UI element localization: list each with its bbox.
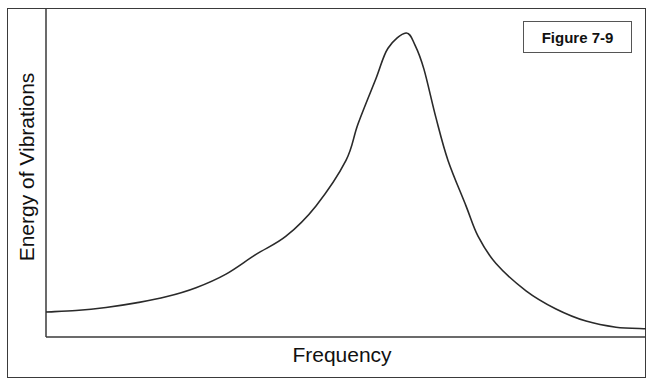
figure-label: Figure 7-9 — [523, 21, 632, 53]
resonance-curve — [46, 33, 646, 329]
y-axis-label: Energy of Vibrations — [15, 73, 39, 262]
figure-label-text: Figure 7-9 — [542, 29, 614, 46]
chart-plot — [0, 0, 656, 388]
x-axis-label: Frequency — [292, 343, 391, 367]
